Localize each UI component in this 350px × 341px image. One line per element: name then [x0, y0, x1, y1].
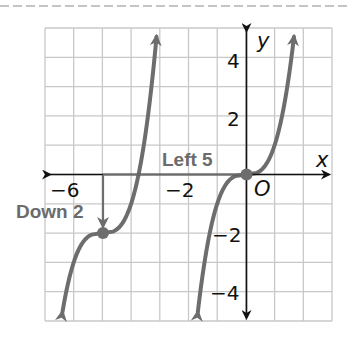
origin-label: O [254, 177, 271, 201]
y-tick-neg-2: −2 [212, 223, 241, 247]
translated-point [97, 227, 109, 239]
x-tick-neg-6: −6 [50, 178, 79, 202]
x-axis-label: x [315, 148, 329, 172]
graph-canvas: y x O 4 2 −2 −4 −6 −2 Left 5 Down 2 [0, 0, 350, 341]
x-tick-neg-2: −2 [165, 178, 194, 202]
y-axis-label: y [256, 29, 270, 53]
down-2-label: Down 2 [16, 201, 84, 222]
y-tick-2: 2 [227, 107, 240, 131]
origin-point [241, 169, 253, 181]
y-tick-4: 4 [227, 49, 240, 73]
left-5-label: Left 5 [162, 149, 213, 170]
y-tick-neg-4: −4 [210, 281, 239, 305]
